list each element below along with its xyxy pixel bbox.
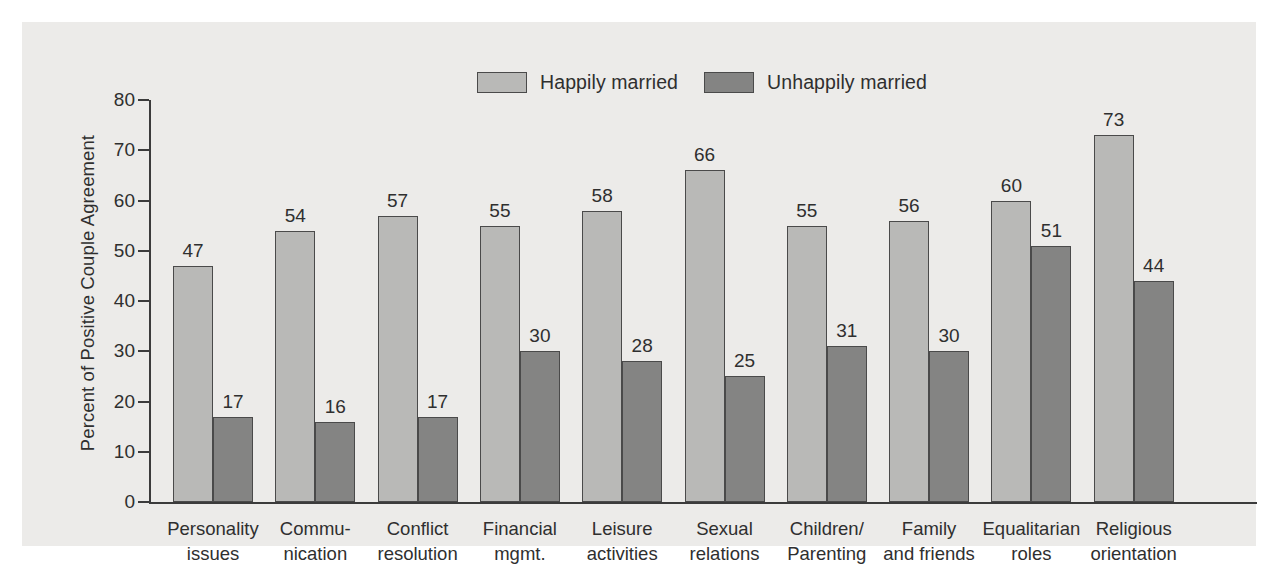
bar-value-label: 44 <box>1124 255 1184 277</box>
x-axis-line <box>149 502 1257 504</box>
bar-unhappily-married <box>827 346 867 502</box>
y-axis-tick <box>138 451 149 453</box>
bar-value-label: 30 <box>510 325 570 347</box>
legend-label-happily-married: Happily married <box>540 71 678 94</box>
bar-value-label: 47 <box>163 240 223 262</box>
y-axis-tick <box>138 401 149 403</box>
bar-unhappily-married <box>315 422 355 502</box>
bar-unhappily-married <box>622 361 662 502</box>
bar-value-label: 66 <box>675 144 735 166</box>
y-axis-tick <box>138 350 149 352</box>
bar-value-label: 25 <box>715 350 775 372</box>
bar-happily-married <box>173 266 213 502</box>
y-axis-line <box>149 100 151 502</box>
bar-value-label: 31 <box>817 320 877 342</box>
legend-swatch-happily-married <box>477 72 527 93</box>
bar-happily-married <box>889 221 929 502</box>
y-axis-tick <box>138 250 149 252</box>
bar-happily-married <box>787 226 827 502</box>
y-axis-tick-label: 0 <box>95 491 135 513</box>
bar-happily-married <box>1094 135 1134 502</box>
y-axis-tick-label: 20 <box>95 391 135 413</box>
y-axis-tick <box>138 501 149 503</box>
bar-happily-married <box>991 201 1031 503</box>
x-axis-category-label: Religiousorientation <box>1064 516 1204 566</box>
bar-unhappily-married <box>520 351 560 502</box>
legend-entry-happily-married: Happily married <box>477 71 678 94</box>
y-axis-tick-label: 30 <box>95 340 135 362</box>
y-axis-tick-label: 60 <box>95 190 135 212</box>
bar-value-label: 51 <box>1021 220 1081 242</box>
y-axis-tick <box>138 200 149 202</box>
legend-swatch-unhappily-married <box>704 72 754 93</box>
bar-happily-married <box>275 231 315 502</box>
y-axis-tick-label: 50 <box>95 240 135 262</box>
bar-value-label: 55 <box>470 200 530 222</box>
chart-figure: Happily married Unhappily married Percen… <box>0 0 1281 585</box>
y-axis-tick-label: 80 <box>95 89 135 111</box>
bar-value-label: 60 <box>981 175 1041 197</box>
bar-value-label: 30 <box>919 325 979 347</box>
bar-value-label: 56 <box>879 195 939 217</box>
legend-entry-unhappily-married: Unhappily married <box>704 71 927 94</box>
category-label-line: orientation <box>1064 541 1204 566</box>
bar-unhappily-married <box>1031 246 1071 502</box>
y-axis-tick-label: 40 <box>95 290 135 312</box>
bar-happily-married <box>378 216 418 502</box>
category-label-line: Religious <box>1064 516 1204 541</box>
bar-unhappily-married <box>725 376 765 502</box>
bar-value-label: 28 <box>612 335 672 357</box>
plot-area: 01020304050607080 4717541657175530582866… <box>149 100 1257 502</box>
y-axis-tick-label: 70 <box>95 139 135 161</box>
y-axis-tick-label: 10 <box>95 441 135 463</box>
chart-panel: Happily married Unhappily married Percen… <box>22 22 1256 546</box>
bar-value-label: 17 <box>203 391 263 413</box>
chart-legend: Happily married Unhappily married <box>477 69 927 95</box>
bar-value-label: 17 <box>408 391 468 413</box>
bar-unhappily-married <box>418 417 458 502</box>
bar-unhappily-married <box>213 417 253 502</box>
bar-value-label: 73 <box>1084 109 1144 131</box>
y-axis-tick <box>138 300 149 302</box>
bar-unhappily-married <box>929 351 969 502</box>
bar-value-label: 16 <box>305 396 365 418</box>
bar-value-label: 55 <box>777 200 837 222</box>
bar-happily-married <box>480 226 520 502</box>
bar-happily-married <box>685 170 725 502</box>
bar-value-label: 57 <box>368 190 428 212</box>
bar-value-label: 54 <box>265 205 325 227</box>
bar-value-label: 58 <box>572 185 632 207</box>
legend-label-unhappily-married: Unhappily married <box>767 71 927 94</box>
bar-unhappily-married <box>1134 281 1174 502</box>
y-axis-tick <box>138 99 149 101</box>
y-axis-tick <box>138 149 149 151</box>
